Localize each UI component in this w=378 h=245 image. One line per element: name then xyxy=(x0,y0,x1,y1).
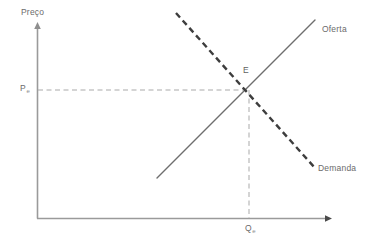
demand-curve xyxy=(176,13,315,168)
supply-curve xyxy=(157,20,315,178)
equilibrium-price-label: Pe xyxy=(20,84,29,93)
y-axis-arrow-icon xyxy=(34,22,41,29)
y-axis-label: Preço xyxy=(21,8,44,17)
equilibrium-point-label: E xyxy=(243,66,249,75)
equilibrium-quantity-symbol: Q xyxy=(245,223,252,233)
equilibrium-price-symbol: P xyxy=(20,83,26,93)
supply-curve-label: Oferta xyxy=(322,25,347,34)
equilibrium-quantity-subscript: e xyxy=(252,228,256,234)
demand-curve-label: Demanda xyxy=(318,164,356,173)
chart-canvas xyxy=(0,0,378,245)
supply-demand-diagram: Preço Oferta Demanda E Pe Qe xyxy=(0,0,378,245)
equilibrium-quantity-label: Qe xyxy=(245,224,255,233)
x-axis-arrow-icon xyxy=(325,215,332,222)
equilibrium-price-subscript: e xyxy=(26,88,30,94)
